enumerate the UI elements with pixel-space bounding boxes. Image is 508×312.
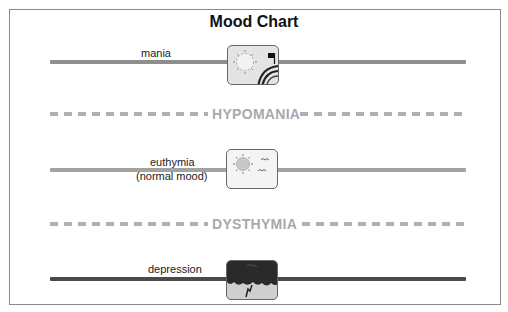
chart-title: Mood Chart [0, 13, 508, 31]
hypomania-dashes-right [300, 112, 468, 116]
hypomania-label: HYPOMANIA [212, 107, 300, 121]
storm-cloud-lightning-icon [227, 261, 278, 300]
euthymia-label-main: euthymia [136, 155, 208, 169]
sun-birds-icon [227, 150, 278, 189]
depression-icon-box [226, 260, 278, 300]
dysthymia-label: DYSTHYMIA [212, 217, 297, 231]
hypomania-dashes-left [50, 112, 208, 116]
dysthymia-threshold: DYSTHYMIA [50, 217, 466, 231]
depression-label: depression [148, 262, 202, 276]
dysthymia-dashes-left [50, 222, 208, 226]
mania-icon-box [227, 45, 279, 85]
euthymia-icon-box [226, 149, 278, 189]
dysthymia-dashes-right [302, 222, 468, 226]
sun-rainbow-music-icon [228, 46, 279, 85]
mania-label: mania [141, 46, 171, 60]
hypomania-threshold: HYPOMANIA [50, 107, 466, 121]
